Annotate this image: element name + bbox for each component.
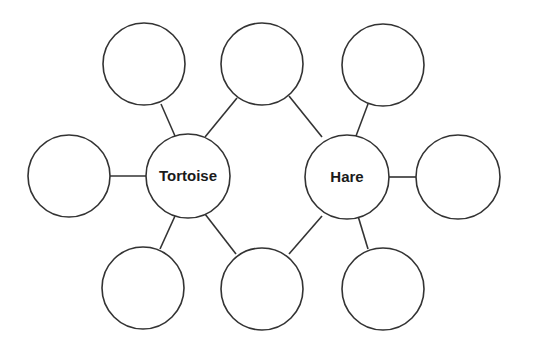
bubble-hare-top [342,24,424,106]
edge-tortoise-bottom [160,216,175,249]
edge-tortoise-top [161,104,175,136]
empty-bubbles [28,23,500,330]
hare-label: Hare [330,168,363,185]
bubble-tortoise-top [103,23,185,105]
edge-hare-shared-bottom [289,216,322,254]
bubble-hare-bottom [342,248,424,330]
bubble-tortoise-left [28,135,110,217]
edge-hare-top [356,104,368,136]
bubble-shared-top [221,23,303,105]
center-bubbles: Tortoise Hare [146,134,389,219]
bubble-hare-right [416,135,500,219]
edge-tortoise-shared-bottom [205,214,236,254]
bubble-shared-bottom [221,248,303,330]
tortoise-label: Tortoise [159,167,217,184]
double-bubble-diagram: Tortoise Hare [0,0,540,351]
edge-hare-bottom [358,216,368,249]
edge-tortoise-shared-top [205,98,237,137]
bubble-tortoise-bottom [102,247,184,329]
edge-hare-shared-top [289,96,322,137]
